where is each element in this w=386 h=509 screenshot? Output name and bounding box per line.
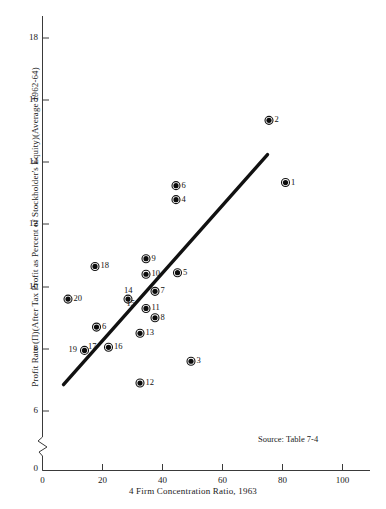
data-point-marker-core [94,324,99,329]
data-point-marker-core [175,270,180,275]
data-point-label: 18 [101,261,110,270]
data-point-label: 12 [146,378,155,387]
data-point-label: 4 [182,195,186,204]
data-point-label: 5 [183,268,187,277]
data-point-marker-core [266,118,271,123]
x-tick-label-80: 80 [270,476,295,485]
x-tick-label-40: 40 [150,476,175,485]
data-point-marker-core [143,272,148,277]
data-point-marker-core [173,183,178,188]
data-point-marker-core [137,380,142,385]
data-point-label: 16 [114,342,123,351]
data-point-marker-core [173,197,178,202]
data-point-label: 19 [69,345,78,354]
data-point-label: 15 [127,299,136,308]
data-point-marker-core [106,345,111,350]
source-note: Source: Table 7-4 [258,434,318,444]
x-tick-label-60: 60 [210,476,235,485]
data-point-marker-core [143,256,148,261]
data-point-label: 13 [146,328,155,337]
y-tick-label-0: 0 [14,464,38,473]
data-point-marker-core [92,264,97,269]
data-point-marker-core [188,359,193,364]
data-point-label: 14 [124,286,133,295]
data-point-label: 6 [182,181,186,190]
data-point-label: 3 [197,356,201,365]
data-point-label: 11 [152,303,160,312]
data-point-label: 1 [291,178,295,187]
x-tick-label-20: 20 [90,476,115,485]
data-point-marker-core [152,289,157,294]
data-point-label: 6 [102,322,106,331]
x-tick-label-0: 0 [30,476,55,485]
data-point-marker-core [283,180,288,185]
data-point-marker-core [152,315,157,320]
data-point-label: 8 [161,313,165,322]
data-point-label: 17 [88,342,97,351]
y-axis-title: Profit Rate (Π)(After Tax Profit as Perc… [30,12,40,442]
scatter-plot-figure: 18 16 14 12 10 8 6 0 0 20 40 60 80 100 1… [0,0,386,509]
data-point-label: 2 [275,115,279,124]
data-point-label: 9 [152,254,156,263]
data-point-marker-core [137,331,142,336]
x-axis-title: 4 Firm Concentration Ratio, 1963 [0,486,386,496]
data-point-marker-core [82,348,87,353]
data-point-label: 7 [161,286,165,295]
plot-canvas [0,0,386,509]
x-tick-label-100: 100 [330,476,355,485]
data-point-marker-core [65,297,70,302]
data-point-label: 20 [74,294,83,303]
data-point-marker-core [143,306,148,311]
data-point-label: 10 [152,269,161,278]
